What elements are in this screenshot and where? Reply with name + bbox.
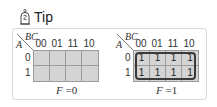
tip-bulb-icon: [19, 9, 31, 25]
col-header: 10: [81, 38, 97, 49]
kmap-cell: [66, 51, 82, 66]
equation-rhs: 0: [72, 84, 78, 96]
kmap-cell: [50, 66, 66, 81]
kmap-cell: [34, 66, 50, 81]
row-variable-label: A: [16, 39, 22, 50]
row-header: 1: [125, 67, 131, 78]
kmap-equation: F =1: [156, 84, 177, 96]
col-header: 00: [133, 38, 149, 49]
col-header: 11: [65, 38, 81, 49]
kmap-cell: [82, 51, 98, 66]
col-header: 01: [149, 38, 165, 49]
kmap-grid: [33, 50, 99, 82]
kmap-cell: [34, 51, 50, 66]
kmap-cell: [82, 66, 98, 81]
col-header: 11: [165, 38, 181, 49]
equation-lhs: F: [56, 84, 63, 96]
row-header: 0: [25, 52, 31, 63]
col-header: 10: [181, 38, 197, 49]
tip-label: Tip: [34, 9, 53, 25]
equation-rhs: 1: [172, 84, 178, 96]
row-header: 1: [25, 67, 31, 78]
row-header: 0: [125, 52, 131, 63]
tip-header: Tip: [19, 8, 53, 26]
col-header: 00: [33, 38, 49, 49]
kmap-group-loop: [135, 52, 196, 80]
col-header: 01: [49, 38, 65, 49]
kmap-cell: [66, 66, 82, 81]
kmap-cell: [50, 51, 66, 66]
equation-lhs: F: [156, 84, 163, 96]
kmap-equation: F =0: [56, 84, 77, 96]
row-variable-label: A: [116, 39, 122, 50]
